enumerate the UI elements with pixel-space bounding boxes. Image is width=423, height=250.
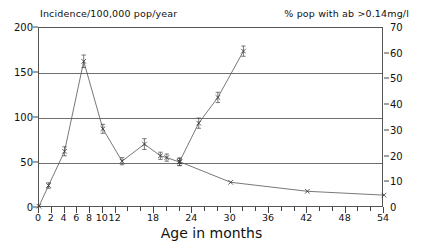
x-tick-mark <box>255 207 256 211</box>
x-tick-mark <box>179 207 180 211</box>
plot-area <box>38 27 383 207</box>
data-series <box>177 46 245 166</box>
chart-figure: Incidence/100,000 pop/year % pop with ab… <box>0 0 423 250</box>
x-tick-mark <box>357 207 358 211</box>
left-tick-mark <box>33 117 38 118</box>
x-tick-mark <box>166 207 167 211</box>
x-tick-label: 6 <box>73 212 79 223</box>
series-line <box>180 162 384 195</box>
right-tick-label: 30 <box>390 124 403 135</box>
x-tick-label: 0 <box>35 212 41 223</box>
left-tick-mark <box>33 162 38 163</box>
x-tick-label: 12 <box>109 212 121 223</box>
left-tick-label: 50 <box>20 157 33 168</box>
right-tick-label: 60 <box>390 47 403 58</box>
right-tick-label: 0 <box>390 202 396 213</box>
right-tick-label: 20 <box>390 150 403 161</box>
x-tick-label: 42 <box>300 212 312 223</box>
x-tick-mark <box>140 207 141 211</box>
right-tick-label: 10 <box>390 176 403 187</box>
right-axis-title: % pop with ab >0.14mg/l <box>284 8 409 19</box>
right-tick-label: 40 <box>390 99 403 110</box>
x-tick-label: 24 <box>185 212 197 223</box>
left-tick-label: 150 <box>14 67 33 78</box>
data-series <box>177 159 386 197</box>
x-tick-label: 2 <box>48 212 54 223</box>
x-tick-label: 4 <box>61 212 67 223</box>
x-tick-label: 30 <box>224 212 236 223</box>
left-tick-label: 100 <box>14 112 33 123</box>
x-tick-mark <box>332 207 333 211</box>
x-tick-mark <box>294 207 295 211</box>
right-tick-label: 50 <box>390 73 403 84</box>
right-tick-mark <box>384 181 389 182</box>
right-tick-mark <box>384 104 389 105</box>
data-series <box>37 55 182 209</box>
x-axis-label: Age in months <box>0 225 423 241</box>
x-tick-label: 36 <box>262 212 274 223</box>
left-tick-mark <box>33 27 38 28</box>
x-tick-label: 18 <box>147 212 159 223</box>
left-axis-title: Incidence/100,000 pop/year <box>40 8 177 19</box>
x-tick-label: 10 <box>96 212 108 223</box>
x-tick-mark <box>204 207 205 211</box>
right-tick-mark <box>384 155 389 156</box>
right-tick-mark <box>384 52 389 53</box>
x-tick-mark <box>242 207 243 211</box>
data-series-layer <box>39 28 384 208</box>
left-tick-mark <box>33 72 38 73</box>
x-tick-mark <box>127 207 128 211</box>
series-line <box>180 51 244 162</box>
right-tick-mark <box>384 78 389 79</box>
right-tick-mark <box>384 129 389 130</box>
x-tick-label: 8 <box>86 212 92 223</box>
x-tick-label: 48 <box>339 212 351 223</box>
x-tick-mark <box>281 207 282 211</box>
x-tick-mark <box>370 207 371 211</box>
left-tick-label: 200 <box>14 22 33 33</box>
x-tick-mark <box>319 207 320 211</box>
x-tick-label: 54 <box>377 212 389 223</box>
x-tick-mark <box>217 207 218 211</box>
series-line <box>39 61 180 206</box>
right-tick-label: 70 <box>390 22 403 33</box>
